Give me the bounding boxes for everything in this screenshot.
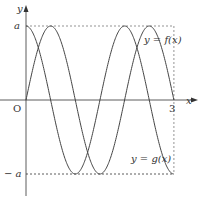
x-axis-label: x — [186, 96, 192, 106]
y-axis-arrow-icon — [24, 5, 29, 12]
f-curve-label: y = f(x) — [144, 35, 182, 45]
neg-a-tick-label: − a — [4, 169, 22, 179]
x-axis-arrow-icon — [191, 98, 198, 103]
plot-area — [0, 0, 202, 201]
x-tick-3-label: 3 — [169, 104, 175, 114]
g-curve-label: y = g(x) — [131, 154, 171, 164]
a-tick-label: a — [14, 21, 20, 31]
y-axis-label: y — [17, 4, 23, 14]
chart: y x O a − a 3 y = f(x) y = g(x) — [0, 0, 202, 201]
origin-label: O — [13, 104, 21, 114]
